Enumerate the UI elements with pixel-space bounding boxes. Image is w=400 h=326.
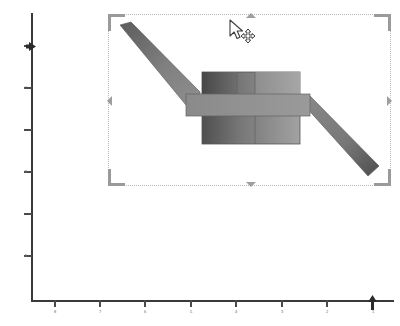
horizontal-ruler-line [31,300,394,302]
vertical-ruler-tick [24,129,32,131]
resize-handle-bottom[interactable] [246,182,256,187]
vertical-ruler-tick-label: B [13,169,27,174]
horizontal-ruler-tick [326,300,328,307]
resize-handle-left[interactable] [107,96,112,106]
vertical-ruler-tick-label: C [13,85,27,90]
horizontal-ruler-tick-label: 2 [319,309,335,314]
resize-handle-top[interactable] [246,13,256,18]
horizontal-ruler-tick-label: 8 [47,309,63,314]
move-cursor-icon [228,19,258,47]
horizontal-ruler-tick-label: 4 [228,309,244,314]
vertical-ruler-line [31,13,33,302]
horizontal-ruler-tick-label: 3 [274,309,290,314]
horizontal-ruler-tick [144,300,146,307]
selection-corner-top-left[interactable] [108,14,125,31]
right-arrow-marker-icon[interactable] [20,40,37,53]
horizontal-ruler-tick [190,300,192,307]
selection-corner-bottom-right[interactable] [374,169,391,186]
horizontal-ruler-tick [281,300,283,307]
selection-corner-top-right[interactable] [374,14,391,31]
selection-corner-bottom-left[interactable] [108,169,125,186]
editor-canvas[interactable]: CBA 87654321 [0,0,400,326]
horizontal-ruler-tick-label: 5 [183,309,199,314]
horizontal-ruler-tick-label: 7 [92,309,108,314]
vertical-ruler-tick-label: A [13,253,27,258]
horizontal-ruler-tick [99,300,101,307]
up-arrow-marker-icon[interactable] [366,294,379,311]
horizontal-ruler-tick [54,300,56,307]
resize-handle-right[interactable] [387,96,392,106]
horizontal-ruler-tick-label: 6 [137,309,153,314]
vertical-ruler-tick [24,213,32,215]
horizontal-ruler-tick [235,300,237,307]
